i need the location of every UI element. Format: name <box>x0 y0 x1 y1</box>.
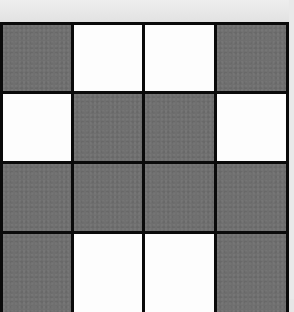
grid-cell-r0-c3-gray <box>217 25 286 91</box>
grid-cell-r2-c1-gray <box>74 164 142 231</box>
grid-cell-r1-c1-gray <box>74 94 142 161</box>
grid-cell-r3-c2-white <box>145 234 214 312</box>
grid-cell-r0-c1-white <box>74 25 142 91</box>
grid-cell-r0-c0-gray <box>3 25 71 91</box>
top-margin <box>0 0 294 22</box>
grid-cell-r3-c3-gray <box>217 234 286 312</box>
grid-cell-r0-c2-white <box>145 25 214 91</box>
grid-cell-r2-c3-gray <box>217 164 286 231</box>
grid-cell-r1-c3-white <box>217 94 286 161</box>
grid-cell-r1-c0-white <box>3 94 71 161</box>
grid-cell-r3-c1-white <box>74 234 142 312</box>
grid-cell-r3-c0-gray <box>3 234 71 312</box>
grid-cell-r1-c2-gray <box>145 94 214 161</box>
grid-cell-r2-c0-gray <box>3 164 71 231</box>
grid-cell-r2-c2-gray <box>145 164 214 231</box>
right-margin <box>289 0 294 299</box>
grid-board <box>0 22 289 312</box>
